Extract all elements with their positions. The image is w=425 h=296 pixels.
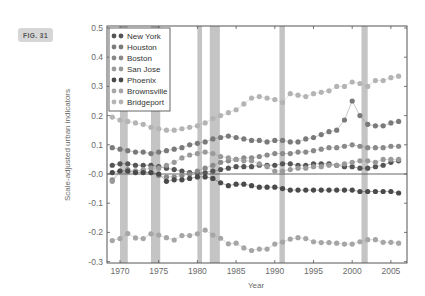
data-point (210, 163, 215, 168)
data-point (280, 161, 285, 166)
data-point (396, 190, 401, 195)
data-point (373, 145, 378, 150)
data-point (311, 148, 316, 153)
data-point (381, 123, 386, 128)
data-point (264, 246, 269, 251)
data-point (249, 138, 254, 143)
y-tick-label: -0.2 (88, 227, 103, 237)
data-point (249, 164, 254, 169)
data-point (210, 151, 215, 156)
data-point (148, 125, 153, 130)
data-point (249, 95, 254, 100)
legend-label: New York (127, 32, 162, 41)
legend-label: Houston (127, 43, 157, 52)
data-point (257, 94, 262, 99)
data-point (179, 155, 184, 160)
data-point (280, 168, 285, 173)
data-point (148, 170, 153, 175)
data-point (179, 145, 184, 150)
data-point (396, 119, 401, 124)
data-point (125, 231, 130, 236)
data-point (319, 164, 324, 169)
data-point (295, 187, 300, 192)
x-tick-label: 2005 (381, 266, 400, 276)
data-point (288, 139, 293, 144)
data-point (373, 189, 378, 194)
data-point (264, 152, 269, 157)
data-point (218, 113, 223, 118)
data-point (125, 161, 130, 166)
data-point (350, 142, 355, 147)
data-point (234, 164, 239, 169)
data-point (195, 141, 200, 146)
data-point (172, 128, 177, 133)
data-point (257, 185, 262, 190)
data-point (388, 144, 393, 149)
data-point (326, 240, 331, 245)
legend-label: San Jose (127, 65, 161, 74)
data-point (280, 186, 285, 191)
data-point (203, 166, 208, 171)
data-point (396, 157, 401, 162)
data-point (350, 241, 355, 246)
data-point (357, 189, 362, 194)
data-point (241, 164, 246, 169)
data-point (203, 139, 208, 144)
data-point (373, 78, 378, 83)
data-point (381, 157, 386, 162)
data-point (295, 235, 300, 240)
data-point (264, 164, 269, 169)
x-tick-label: 1995 (304, 266, 323, 276)
data-point (311, 164, 316, 169)
data-point (148, 231, 153, 236)
data-point (226, 183, 231, 188)
data-point (234, 135, 239, 140)
data-point (342, 144, 347, 149)
data-point (226, 166, 231, 171)
data-point (164, 128, 169, 133)
data-point (264, 185, 269, 190)
x-tick-label: 1985 (227, 266, 246, 276)
data-point (195, 123, 200, 128)
data-point (110, 179, 115, 184)
data-point (288, 237, 293, 242)
x-tick-label: 1970 (111, 266, 130, 276)
data-point (357, 239, 362, 244)
y-tick-label: 0.3 (91, 81, 103, 91)
data-point (218, 236, 223, 241)
data-point (311, 91, 316, 96)
data-point (295, 166, 300, 171)
x-tick-label: 1990 (265, 266, 284, 276)
data-point (257, 246, 262, 251)
legend: New YorkHoustonBostonSan JosePhoenixBrow… (109, 28, 170, 111)
data-point (148, 151, 153, 156)
data-point (241, 101, 246, 106)
data-point (350, 98, 355, 103)
data-point (117, 147, 122, 152)
data-point (373, 160, 378, 165)
data-point (141, 170, 146, 175)
data-point (288, 91, 293, 96)
data-point (117, 168, 122, 173)
y-tick-label: 0.2 (91, 111, 103, 121)
data-point (117, 236, 122, 241)
data-point (272, 138, 277, 143)
data-point (272, 168, 277, 173)
y-tick-label: 0.4 (91, 52, 103, 62)
data-point (303, 236, 308, 241)
data-point (357, 113, 362, 118)
data-point (303, 150, 308, 155)
data-point (357, 144, 362, 149)
data-point (187, 125, 192, 130)
data-point (342, 117, 347, 122)
data-point (156, 126, 161, 131)
data-point (110, 238, 115, 243)
data-point (381, 78, 386, 83)
data-point (326, 129, 331, 134)
data-point (172, 237, 177, 242)
data-point (133, 120, 138, 125)
data-point (365, 158, 370, 163)
data-point (334, 163, 339, 168)
data-point (249, 183, 254, 188)
data-point (350, 187, 355, 192)
